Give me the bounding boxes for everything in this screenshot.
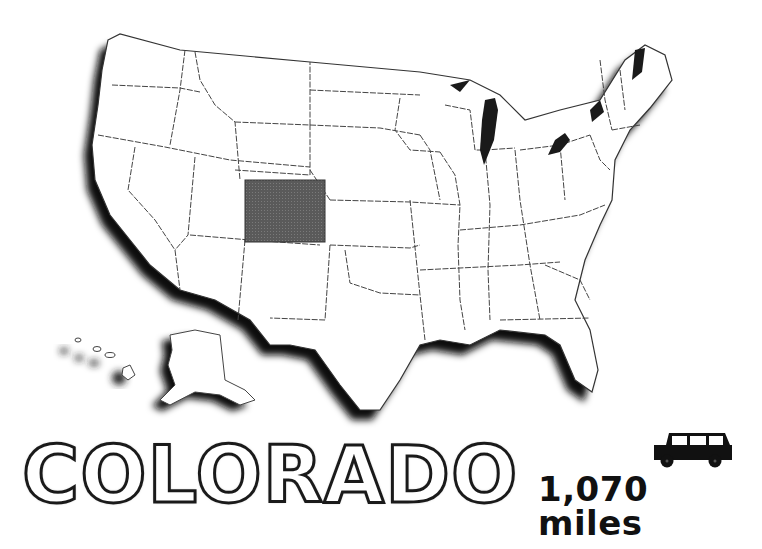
us-map-svg xyxy=(0,0,762,430)
hawaii-inset xyxy=(60,338,135,385)
colorado-state xyxy=(245,180,325,242)
state-name-title: COLORADO xyxy=(22,436,518,514)
us-map xyxy=(0,0,762,430)
car-icon xyxy=(652,430,732,470)
alaska-inset xyxy=(152,330,255,411)
distance-label: 1,070 miles xyxy=(538,472,762,540)
